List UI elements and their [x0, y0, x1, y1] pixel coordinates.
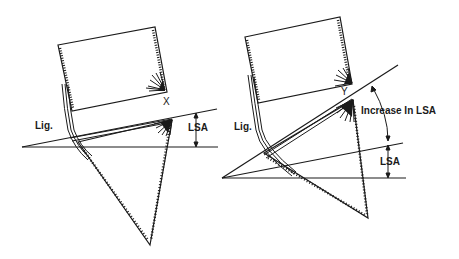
right-ligament-label: Lig. — [234, 122, 252, 132]
left-panel — [22, 27, 218, 245]
left-ligament-label: Lig. — [35, 121, 53, 131]
right-bone-block — [245, 17, 352, 103]
left-triangle — [78, 120, 172, 245]
left-bone-block — [58, 27, 167, 111]
right-lsa-label: LSA — [380, 157, 400, 167]
right-point-y-label: Y — [341, 87, 348, 97]
right-increase-label: Increase In LSA — [361, 106, 436, 116]
left-lsa-label: LSA — [188, 123, 208, 133]
diagram-canvas — [0, 0, 459, 259]
left-point-x-label: X — [163, 97, 170, 107]
right-panel — [222, 17, 406, 218]
